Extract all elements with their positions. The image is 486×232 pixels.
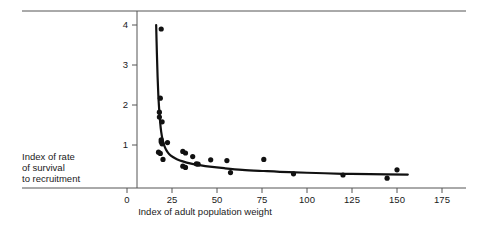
data-point <box>160 141 165 146</box>
x-tick-label: 100 <box>299 194 315 205</box>
x-tick-labels: 0255075100125150175 <box>124 194 450 205</box>
data-point <box>157 110 162 115</box>
data-point <box>261 157 266 162</box>
x-tick-label: 75 <box>257 194 268 205</box>
y-tick-label: 1 <box>123 139 128 150</box>
x-tick-marks <box>127 188 442 193</box>
x-tick-label: 25 <box>167 194 178 205</box>
y-tick-marks <box>132 25 137 145</box>
x-tick-label: 175 <box>434 194 450 205</box>
data-point <box>340 172 345 177</box>
data-point-group <box>156 26 400 180</box>
data-point <box>183 150 188 155</box>
y-tick-label: 2 <box>123 99 128 110</box>
fit-curve <box>156 25 408 175</box>
y-axis-title-line-3: to recruitment <box>22 173 80 184</box>
data-point <box>208 157 213 162</box>
x-axis-title: Index of adult population weight <box>138 206 272 217</box>
y-tick-labels: 1234 <box>123 19 128 150</box>
data-point <box>190 154 195 159</box>
data-point <box>183 165 188 170</box>
y-axis-title-line-2: of survival <box>22 162 65 173</box>
x-tick-label: 150 <box>389 194 405 205</box>
y-axis-title-line-1: Index of rate <box>22 151 75 162</box>
data-point <box>157 114 162 119</box>
data-point <box>160 157 165 162</box>
x-tick-label: 50 <box>212 194 223 205</box>
figure-container: 1234 0255075100125150175 Index of adult … <box>0 0 486 232</box>
data-point <box>165 140 170 145</box>
y-tick-label: 3 <box>123 59 128 70</box>
x-tick-label: 125 <box>344 194 360 205</box>
data-point <box>158 96 163 101</box>
scatter-plot: 1234 0255075100125150175 Index of adult … <box>0 0 486 232</box>
data-point <box>196 162 201 167</box>
data-point <box>159 26 164 31</box>
data-point <box>224 158 229 163</box>
data-point <box>385 176 390 181</box>
x-tick-label: 0 <box>124 194 129 205</box>
data-point <box>291 171 296 176</box>
y-tick-label: 4 <box>123 19 128 30</box>
data-point <box>160 119 165 124</box>
data-point <box>228 170 233 175</box>
data-point <box>394 167 399 172</box>
data-point <box>158 151 163 156</box>
